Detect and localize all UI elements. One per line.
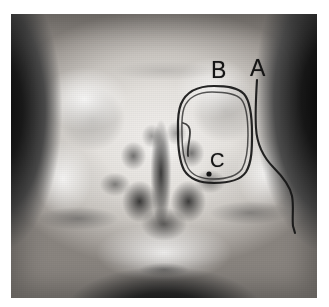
radiograph-figure: B A C: [0, 0, 329, 307]
annotation-label-b: B: [211, 59, 226, 82]
film-vignette-layer: [11, 14, 317, 298]
annotation-label-a: A: [250, 57, 265, 80]
annotation-label-c: C: [210, 150, 224, 170]
radiograph-plate: [11, 14, 317, 298]
